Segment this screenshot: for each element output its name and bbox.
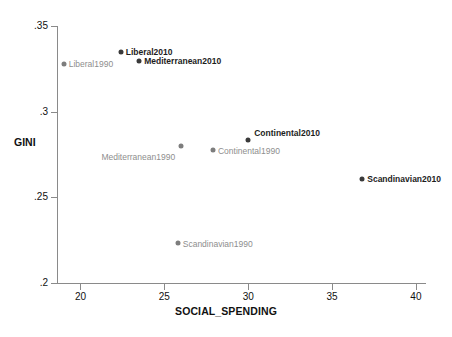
x-axis-tick: [248, 284, 249, 290]
y-axis-tick: [51, 197, 57, 198]
x-axis-tick-label: 25: [159, 292, 170, 302]
x-axis-line: [57, 283, 426, 284]
y-axis-tick-label: .25: [34, 192, 48, 202]
x-axis-tick: [332, 284, 333, 290]
data-point-label: Mediterranean1990: [101, 153, 175, 162]
data-point-marker[interactable]: [360, 177, 365, 182]
data-point-label: Liberal2010: [126, 48, 173, 57]
data-point-label: Scandinavian1990: [183, 240, 253, 249]
data-point-label: Continental1990: [218, 147, 280, 156]
y-axis-tick: [51, 26, 57, 27]
data-point-label: Scandinavian2010: [367, 175, 441, 184]
data-point-marker[interactable]: [118, 50, 123, 55]
data-point-marker[interactable]: [210, 148, 215, 153]
x-axis-tick-label: 30: [243, 292, 254, 302]
scatter-plot-figure: GINI SOCIAL_SPENDING .35.3.25.2202530354…: [0, 0, 452, 337]
y-axis-line: [57, 26, 58, 283]
y-axis-tick-label: .3: [40, 107, 48, 117]
x-axis-title: SOCIAL_SPENDING: [0, 305, 452, 317]
y-axis-tick: [51, 112, 57, 113]
x-axis-tick-label: 40: [410, 292, 421, 302]
x-axis-tick: [164, 284, 165, 290]
y-axis-tick: [51, 283, 57, 284]
data-point-label: Continental2010: [254, 129, 320, 138]
data-point-marker[interactable]: [175, 240, 180, 245]
y-axis-tick-label: .35: [34, 21, 48, 31]
x-axis-tick-label: 35: [327, 292, 338, 302]
data-point-label: Liberal1990: [69, 60, 113, 69]
data-point-marker[interactable]: [137, 59, 142, 64]
x-axis-tick-label: 20: [75, 292, 86, 302]
x-axis-tick: [416, 284, 417, 290]
data-point-marker[interactable]: [246, 138, 251, 143]
y-axis-title: GINI: [14, 136, 36, 148]
y-axis-tick-label: .2: [40, 278, 48, 288]
data-point-label: Mediterranean2010: [144, 57, 221, 66]
data-point-marker[interactable]: [179, 144, 184, 149]
x-axis-tick: [80, 284, 81, 290]
data-point-marker[interactable]: [61, 62, 66, 67]
